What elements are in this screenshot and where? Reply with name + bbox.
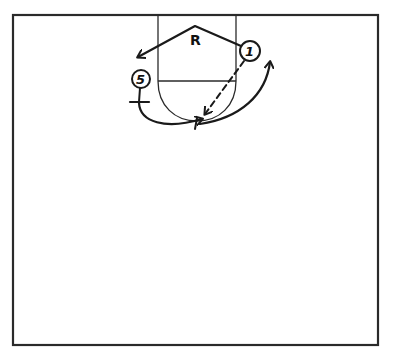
player-1: 1 bbox=[240, 41, 260, 61]
player-5: 5 bbox=[130, 70, 150, 102]
player-5-cut-arrow bbox=[139, 103, 202, 124]
player-1-label: 1 bbox=[245, 44, 254, 59]
player-5-stem bbox=[139, 88, 140, 102]
play-diagram: R 1 5 bbox=[0, 0, 393, 356]
pass-dashed-arrow bbox=[205, 61, 244, 114]
rebounder-label: R bbox=[190, 32, 201, 48]
cut-tick-mark bbox=[195, 118, 197, 129]
lane bbox=[158, 15, 236, 121]
court-boundary bbox=[13, 15, 378, 345]
player-5-label: 5 bbox=[136, 72, 145, 87]
